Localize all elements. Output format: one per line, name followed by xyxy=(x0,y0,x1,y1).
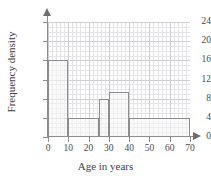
y-tick-mark xyxy=(43,80,48,81)
x-tick-label: 0 xyxy=(37,144,59,154)
x-tick-label: 70 xyxy=(179,144,201,154)
x-tick-mark xyxy=(170,137,171,142)
histogram-bar xyxy=(68,118,98,137)
y-axis-arrow-icon xyxy=(43,8,51,16)
y-tick-mark xyxy=(43,22,48,23)
histogram-bar xyxy=(99,99,109,137)
x-tick-mark xyxy=(190,137,191,142)
y-tick-mark xyxy=(43,99,48,100)
histogram-bar xyxy=(48,60,68,137)
y-tick-label: 16 xyxy=(167,55,211,65)
x-tick-label: 40 xyxy=(118,144,140,154)
y-tick-mark xyxy=(43,60,48,61)
x-tick-label: 30 xyxy=(98,144,120,154)
x-tick-mark xyxy=(109,137,110,142)
y-tick-label: 12 xyxy=(167,75,211,85)
y-tick-label: 4 xyxy=(167,113,211,123)
histogram-bar xyxy=(109,92,129,137)
y-tick-mark xyxy=(43,41,48,42)
x-tick-mark xyxy=(149,137,150,142)
x-axis-title: Age in years xyxy=(0,160,211,172)
histogram-chart: 04812162024 010203040506070 Age in years… xyxy=(0,0,211,182)
y-tick-label: 8 xyxy=(167,94,211,104)
x-tick-mark xyxy=(89,137,90,142)
x-tick-mark xyxy=(48,137,49,142)
y-tick-mark xyxy=(43,118,48,119)
x-tick-mark xyxy=(129,137,130,142)
x-tick-label: 10 xyxy=(57,144,79,154)
y-axis-line xyxy=(47,14,48,138)
x-tick-mark xyxy=(68,137,69,142)
x-tick-label: 60 xyxy=(159,144,181,154)
x-tick-label: 20 xyxy=(78,144,100,154)
x-tick-label: 50 xyxy=(138,144,160,154)
y-tick-label: 0 xyxy=(167,132,211,142)
y-axis-title: Frequency density xyxy=(5,17,17,127)
y-tick-label: 24 xyxy=(167,17,211,27)
y-tick-label: 20 xyxy=(167,36,211,46)
